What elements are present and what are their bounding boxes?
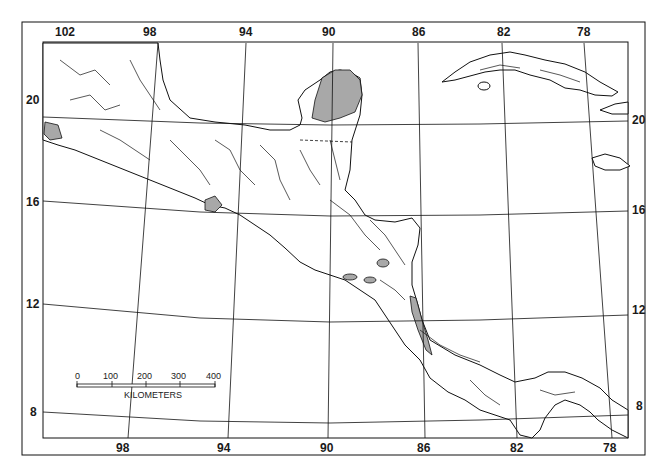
scale-tick-label: 100	[103, 371, 118, 381]
lon-label-top: 102	[55, 25, 75, 39]
scale-tick-label: 400	[206, 371, 221, 381]
lon-label-bottom: 82	[510, 441, 524, 455]
meridian-86	[418, 43, 425, 438]
honduras-shaded-spot	[377, 259, 389, 267]
scale-tick-label: 200	[137, 371, 152, 381]
lon-label-bottom: 86	[417, 441, 431, 455]
lon-label-top: 82	[497, 25, 511, 39]
central-america-map: 102 98 94 90 86 82 78 98 94 90 86 82 78 …	[0, 0, 668, 476]
lat-label-left: 8	[30, 405, 37, 419]
lat-label-right: 20	[632, 113, 646, 127]
lon-label-top: 94	[239, 25, 253, 39]
lon-label-top: 90	[322, 25, 336, 39]
lon-label-bottom: 98	[116, 441, 130, 455]
latitude-labels-right: 20 16 12 8	[632, 113, 646, 413]
el-salvador-shaded-spot-1	[343, 274, 357, 280]
lat-label-left: 12	[26, 297, 40, 311]
lon-label-bottom: 78	[603, 441, 617, 455]
lat-label-left: 16	[26, 195, 40, 209]
scale-unit-label: KILOMETERS	[124, 390, 182, 400]
scale-tick-label: 300	[171, 371, 186, 381]
lat-label-left: 20	[26, 93, 40, 107]
scale-tick-label: 0	[75, 371, 80, 381]
meridian-94	[228, 43, 246, 438]
longitude-labels-bottom: 98 94 90 86 82 78	[116, 441, 617, 455]
cuba-island	[442, 52, 618, 96]
isle-of-youth	[478, 82, 490, 90]
hispaniola-tip	[600, 102, 628, 114]
el-salvador-shaded-spot-2	[364, 277, 376, 283]
lat-label-right: 16	[632, 203, 646, 217]
lon-label-top: 98	[143, 25, 157, 39]
lon-label-top: 86	[412, 25, 426, 39]
lat-label-right: 8	[636, 399, 643, 413]
longitude-labels-top: 102 98 94 90 86 82 78	[55, 25, 591, 39]
lon-label-bottom: 94	[217, 441, 231, 455]
lon-label-bottom: 90	[320, 441, 334, 455]
parallel-12	[43, 304, 628, 322]
latitude-labels-left: 20 16 12 8	[26, 93, 40, 419]
meridian-78	[584, 43, 612, 438]
scale-bar: 0 100 200 300 400 KILOMETERS	[75, 371, 221, 400]
jamaica-island	[592, 154, 630, 170]
lat-label-right: 12	[632, 303, 646, 317]
lon-label-top: 78	[577, 25, 591, 39]
